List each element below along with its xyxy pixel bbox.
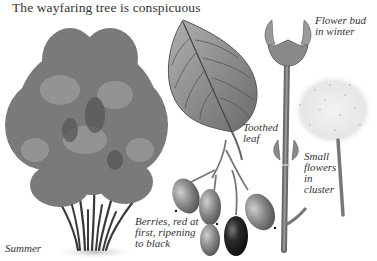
caption-summer: Summer: [5, 243, 41, 254]
caption-berries: Berries, red at first, ripening to black: [135, 216, 198, 249]
caption-toothed-leaf: Toothed leaf: [243, 122, 278, 144]
caption-small-flowers: Small flowers in cluster: [304, 151, 336, 195]
caption-flower-bud: Flower bud in winter: [315, 15, 366, 37]
